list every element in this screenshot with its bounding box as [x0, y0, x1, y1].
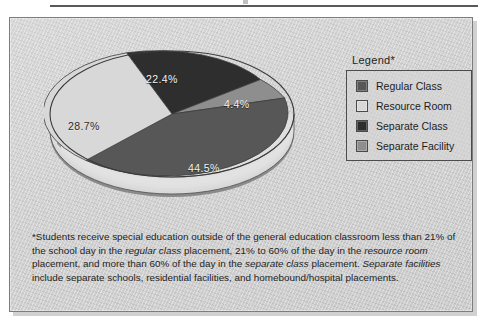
legend-label-resource-room: Resource Room — [376, 100, 452, 112]
caption-emphasis: separate class — [245, 258, 309, 269]
legend-item-regular-class: Regular Class — [356, 79, 464, 92]
legend-swatch-separate-facility — [356, 140, 368, 152]
legend-swatch-regular-class — [356, 80, 368, 92]
figure-panel: 22.4% 4.4% 28.7% 44.5% Legend* Regular C… — [9, 17, 473, 312]
legend-item-separate-facility: Separate Facility — [356, 139, 464, 152]
page-header-rule-area — [0, 0, 489, 16]
legend-title: Legend* — [352, 54, 474, 66]
caption-text: placement, 21% to 60% of the day in the — [181, 245, 364, 256]
figure-caption: *Students receive special education outs… — [32, 230, 456, 284]
caption-text: placement. — [309, 258, 363, 269]
caption-text: include separate schools, residential fa… — [32, 272, 399, 283]
legend-label-separate-class: Separate Class — [376, 120, 448, 132]
legend-label-separate-facility: Separate Facility — [376, 140, 454, 152]
legend-box: Regular Class Resource Room Separate Cla… — [346, 70, 472, 161]
legend-swatch-separate-class — [356, 120, 368, 132]
legend: Legend* Regular Class Resource Room Sepa… — [346, 54, 474, 161]
clipped-header-text-mark — [243, 0, 248, 4]
caption-emphasis: resource room — [364, 245, 428, 256]
legend-swatch-resource-room — [356, 100, 368, 112]
legend-label-regular-class: Regular Class — [376, 80, 442, 92]
caption-text: placement, and more than 60% of the day … — [32, 258, 245, 269]
caption-emphasis: regular class — [125, 245, 181, 256]
horizontal-rule — [50, 5, 478, 7]
pie-chart: 22.4% 4.4% 28.7% 44.5% — [10, 18, 340, 228]
legend-item-separate-class: Separate Class — [356, 119, 464, 132]
caption-emphasis: Separate facilities — [362, 258, 440, 269]
legend-item-resource-room: Resource Room — [356, 99, 464, 112]
pie-chart-svg — [44, 36, 306, 216]
